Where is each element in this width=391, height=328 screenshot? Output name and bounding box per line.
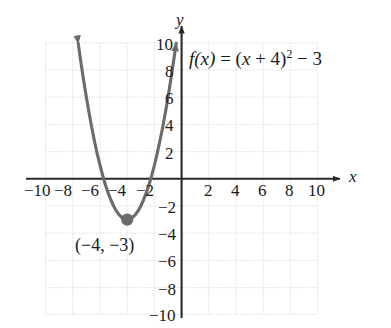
y-tick-label-2: 2 [165, 145, 174, 162]
y-tick-label-neg8: −8 [158, 281, 176, 298]
equals-sign: = [215, 48, 235, 69]
y-tick-label-neg4: −4 [158, 226, 176, 243]
vertex-point [121, 214, 133, 226]
x-tick-label-6: 6 [258, 182, 267, 199]
y-tick-label-neg6: −6 [158, 253, 176, 270]
function-equation-label: f(x) = (x + 4)2 − 3 [189, 49, 322, 68]
x-tick-label-neg4: −4 [108, 182, 126, 199]
y-tick-label-neg2: −2 [158, 199, 176, 216]
x-tick-label-10: 10 [308, 182, 325, 199]
function-argument: (x) [194, 48, 215, 69]
constant-term: − 3 [292, 48, 322, 69]
x-tick-label-neg8: −8 [54, 182, 72, 199]
x-tick-label-neg10: −10 [24, 182, 51, 199]
x-axis-label: x [349, 168, 357, 185]
graph-screenshot: −10 −8 −6 −4 −2 2 4 6 8 10 10 8 6 4 2 −2… [0, 0, 391, 328]
x-tick-label-4: 4 [231, 182, 240, 199]
x-tick-label-8: 8 [285, 182, 294, 199]
body-addend: + 4 [250, 48, 280, 69]
vertex-coordinate-label: (−4, −3) [75, 236, 134, 254]
x-tick-label-neg2: −2 [136, 182, 154, 199]
x-tick-label-neg6: −6 [81, 182, 99, 199]
y-tick-label-neg10: −10 [149, 307, 176, 324]
y-tick-label-8: 8 [165, 63, 174, 80]
y-tick-label-6: 6 [165, 90, 174, 107]
y-tick-label-4: 4 [165, 117, 174, 134]
x-tick-label-2: 2 [204, 182, 213, 199]
y-tick-label-10: 10 [156, 36, 173, 53]
y-axis-label: y [176, 11, 184, 28]
